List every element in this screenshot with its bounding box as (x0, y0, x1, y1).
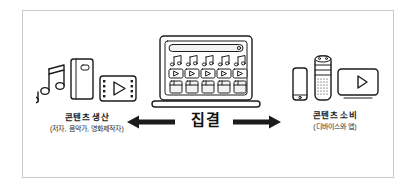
content-consumption-label: 콘텐츠 소비 (313, 110, 357, 121)
smartphone-icon (290, 62, 310, 102)
content-production-label: 콘텐츠 생산 (50, 112, 124, 123)
arrow-left-icon (126, 113, 176, 131)
diagram-canvas: 콘텐츠 생산 (저자, 음악가, 영화제작자) (0, 0, 412, 194)
book-row (170, 81, 246, 93)
tv-play-icon (336, 64, 380, 102)
music-note-icon (36, 62, 66, 104)
consumption-icon-row (290, 50, 380, 102)
film-strip-play-icon (98, 72, 138, 104)
laptop-hub-icon (148, 34, 264, 112)
content-consumption-group: 콘텐츠 소비 (디바이스와 앱) (280, 50, 390, 131)
content-production-sublabel: (저자, 음악가, 영화제작자) (50, 125, 124, 134)
arrow-right-icon (232, 113, 282, 131)
hub-label: 집결 (175, 108, 237, 129)
smart-speaker-icon (311, 54, 335, 102)
play-button-row (169, 69, 247, 78)
content-consumption-caption: 콘텐츠 소비 (디바이스와 앱) (313, 110, 357, 131)
content-consumption-sublabel: (디바이스와 앱) (313, 123, 357, 132)
book-icon (67, 56, 97, 104)
production-icon-row (36, 52, 138, 104)
content-production-caption: 콘텐츠 생산 (저자, 음악가, 영화제작자) (50, 112, 124, 133)
